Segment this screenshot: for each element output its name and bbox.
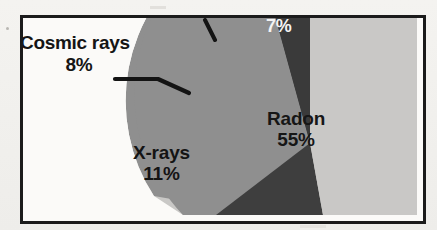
slice-label-dark-top: 7% [266,16,292,36]
xrays-percent: 11% [133,163,190,184]
radon-region-top [310,18,417,215]
scan-speck [150,6,166,9]
xrays-name: X-rays [133,142,190,163]
cosmic-rays-name: Cosmic rays [20,32,170,54]
chart-frame: Radon 55% X-rays 11% 7% Cosmic rays 8% [20,15,426,224]
slice-label-radon: Radon 55% [267,108,325,151]
radon-percent: 55% [267,129,325,150]
dark-top-percent: 7% [266,16,292,36]
cosmic-rays-percent: 8% [20,54,138,76]
radon-name: Radon [267,108,325,129]
scan-speck [6,27,9,30]
scan-speck [300,225,326,228]
slice-label-xrays: X-rays 11% [133,142,190,185]
slice-label-cosmic-rays: Cosmic rays 8% [20,32,170,77]
